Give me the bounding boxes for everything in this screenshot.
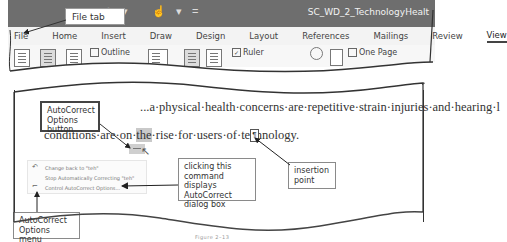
tab-layout[interactable]: Layout (249, 31, 278, 41)
tab-insert[interactable]: Insert (101, 31, 125, 41)
immersive-reader-icon[interactable] (148, 49, 168, 67)
zoom-100-icon[interactable] (330, 49, 343, 66)
tab-view[interactable]: View (487, 30, 507, 43)
tab-references[interactable]: References (302, 31, 349, 41)
customize-qat-icon[interactable]: = (192, 5, 198, 18)
view-ribbon-toolbar: Outline ✓ Ruler One Page (8, 45, 435, 67)
menu-item-change-back[interactable]: Change back to "teh" (45, 165, 99, 171)
tab-draw[interactable]: Draw (150, 31, 172, 41)
touch-mode-icon[interactable]: ☝ (152, 5, 166, 18)
tab-mailings[interactable]: Mailings (373, 31, 408, 41)
checkbox-checked-icon: ✓ (232, 48, 241, 57)
zoom-magnifier-icon[interactable] (310, 47, 323, 60)
touch-dropdown-icon[interactable]: ▾ (176, 5, 182, 18)
autocorrected-word[interactable]: the (136, 128, 151, 142)
document-title: SC_WD_2_TechnologyHealt (308, 7, 429, 17)
undo-icon: ↶ (32, 163, 38, 171)
menu-item-stop-autocorrecting[interactable]: Stop Automatically Correcting "teh" (45, 175, 134, 181)
menu-item-control-autocorrect-options[interactable]: Control AutoCorrect Options... (45, 185, 120, 191)
web-layout-icon[interactable] (66, 49, 82, 67)
side-to-side-icon[interactable] (206, 49, 222, 67)
ribbon-tabs: File Home Insert Draw Design Layout Refe… (8, 27, 435, 45)
tab-file[interactable]: File (14, 31, 28, 41)
callout-autocorrect-button: AutoCorrect Options button (40, 101, 100, 132)
tab-review[interactable]: Review (432, 31, 462, 41)
ruler-checkbox[interactable]: ✓ Ruler (232, 48, 264, 57)
cut-text-line: The ... has led ... (80, 70, 153, 82)
outline-icon (90, 48, 99, 57)
document-line-1: ...a·physical·health·concerns·are·repeti… (140, 100, 500, 115)
figure-caption: Figure 2–13 (195, 234, 229, 240)
tab-home[interactable]: Home (52, 31, 77, 41)
callout-file-tab: File tab (65, 8, 125, 25)
mouse-pointer-icon: ↖ (141, 145, 150, 158)
tab-design[interactable]: Design (196, 31, 225, 41)
one-page-icon (348, 48, 357, 57)
one-page-button[interactable]: One Page (348, 48, 397, 57)
callout-autocorrect-menu: AutoCorrect Options menu (13, 212, 80, 239)
vertical-page-movement-icon[interactable] (184, 49, 200, 67)
print-layout-icon[interactable] (40, 49, 56, 67)
read-mode-icon[interactable] (14, 49, 30, 67)
autocorrect-options-menu: ↶ Change back to "teh" Stop Automaticall… (27, 160, 147, 194)
autocorrect-options-icon: ⌐ (32, 182, 38, 190)
callout-insertion-point: insertion point (288, 162, 336, 189)
insertion-point: ¶ (250, 129, 259, 142)
outline-button[interactable]: Outline (90, 48, 130, 57)
callout-clicking-command: clicking this command displays AutoCorre… (178, 158, 256, 201)
